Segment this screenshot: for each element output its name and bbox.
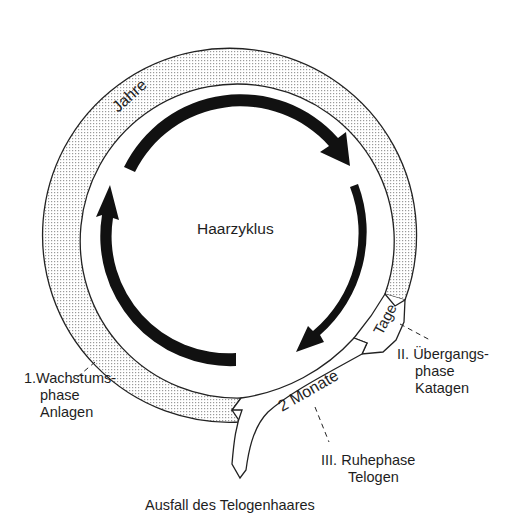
leader-phase2	[400, 324, 430, 340]
phase-1-number: 1.	[24, 370, 36, 386]
footer-caption: Ausfall des Telogenhaares	[145, 497, 315, 514]
phase-3-label: III. Ruhephase Telogen	[321, 452, 415, 486]
arrow-right	[296, 184, 367, 352]
phase-2-name-line2: phase	[397, 363, 489, 380]
arrow-left	[96, 185, 236, 366]
diagram-title: Haarzyklus	[197, 220, 274, 237]
phase-1-name-line2: phase	[24, 387, 116, 404]
phase-3-latin: Telogen	[321, 469, 415, 486]
phase-3-name-line1: Ruhephase	[341, 452, 415, 468]
phase-1-label: 1.Wachstums- phase Anlagen	[24, 370, 116, 421]
leader-phase3	[315, 407, 329, 442]
phase-2-latin: Katagen	[397, 380, 489, 397]
phase-2-label: II. Übergangs- phase Katagen	[397, 346, 489, 397]
phase-2-name-line1: Übergangs-	[413, 346, 489, 362]
phase-1-latin: Anlagen	[24, 404, 116, 421]
phase-3-number: III.	[321, 452, 337, 468]
hair-cycle-diagram: Jahre Tage 2 Monate	[0, 0, 532, 520]
phase-2-number: II.	[397, 346, 409, 362]
phase-1-name-line1: Wachstums-	[36, 370, 116, 386]
